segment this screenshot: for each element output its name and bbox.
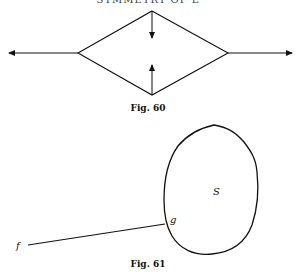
- figure-60-diagram: [0, 0, 296, 272]
- label-s: S: [213, 186, 220, 197]
- figure-61-caption: Fig. 61: [0, 259, 296, 269]
- figure-60-caption: Fig. 60: [0, 103, 296, 113]
- segment-f-to-g: [28, 224, 165, 245]
- rhombus-shape: [78, 11, 228, 95]
- label-f: f: [16, 240, 20, 251]
- region-s-curve: [164, 125, 258, 254]
- label-g: g: [170, 214, 176, 225]
